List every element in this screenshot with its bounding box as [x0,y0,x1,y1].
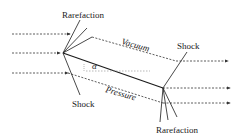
shock-bottom-line [63,53,80,95]
rarefaction-bottom-label: Rarefaction [156,125,198,135]
incoming-flow-lines [12,34,70,73]
rarefaction-top-label: Rarefaction [62,10,104,20]
rarefaction-fan-bottom [160,88,177,122]
outgoing-flow-lines [163,61,230,103]
pressure-label: Pressure [103,84,137,103]
shock-right-line [163,52,187,88]
shock-bottom-label: Shock [72,99,95,109]
alpha-label: α [92,61,97,71]
rarefaction-fan-top [63,20,92,53]
shock-right-label: Shock [177,41,200,51]
wedge-flow-diagram: Rarefaction Vacuum Shock α Shock Pressur… [0,0,242,140]
plate [63,53,163,88]
vacuum-label: Vacuum [120,36,151,54]
